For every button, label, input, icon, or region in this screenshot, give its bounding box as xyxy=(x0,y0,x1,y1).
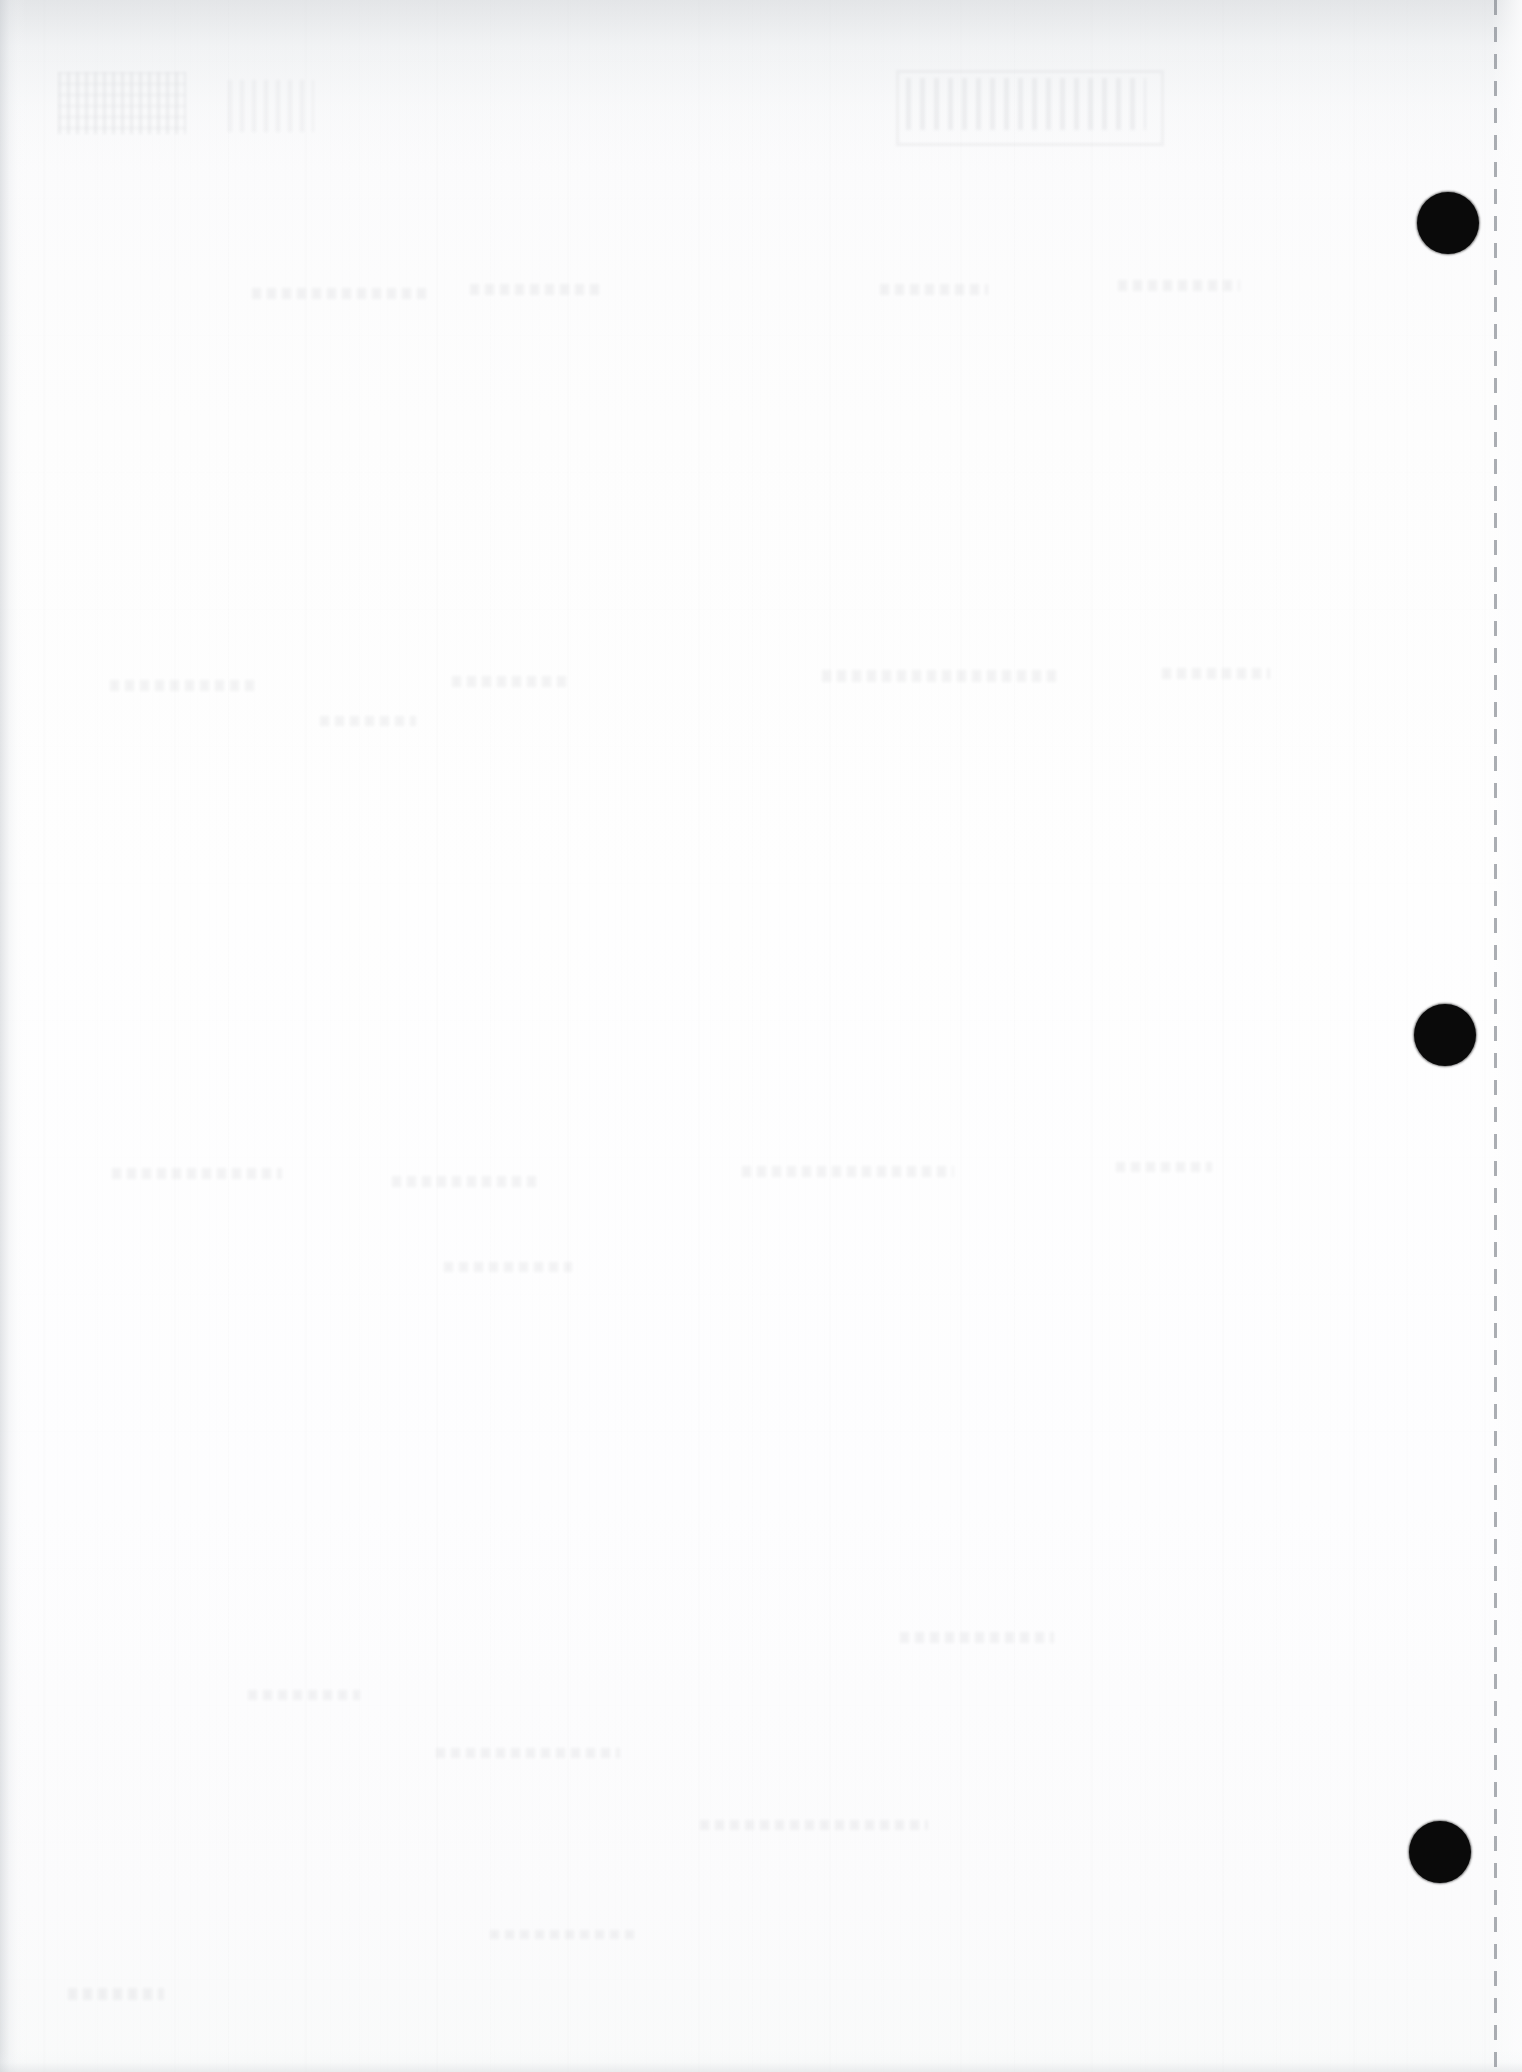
paper-background xyxy=(0,0,1522,2072)
hole-punch-mark-middle xyxy=(1414,1004,1476,1066)
scanned-document-page xyxy=(0,0,1522,2072)
hole-punch-mark-bottom xyxy=(1409,1821,1471,1883)
hole-punch-mark-top xyxy=(1417,192,1479,254)
